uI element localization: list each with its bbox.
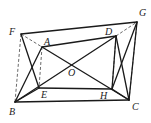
segment-AD xyxy=(42,36,116,47)
label-A: A xyxy=(43,36,51,47)
segment-FG xyxy=(21,22,137,34)
solid-lines xyxy=(15,22,137,102)
label-D: D xyxy=(104,26,113,37)
label-O: O xyxy=(68,67,75,78)
segment-FE xyxy=(21,34,39,88)
segment-HE xyxy=(39,88,112,89)
label-G: G xyxy=(139,7,146,18)
geometry-figure: F A D G O B E H C xyxy=(0,0,151,123)
label-H: H xyxy=(99,90,108,101)
segment-CB xyxy=(15,100,129,102)
label-C: C xyxy=(132,101,139,112)
label-E: E xyxy=(40,89,47,100)
label-F: F xyxy=(8,26,16,37)
label-B: B xyxy=(9,106,15,117)
segment-DC xyxy=(116,36,129,100)
